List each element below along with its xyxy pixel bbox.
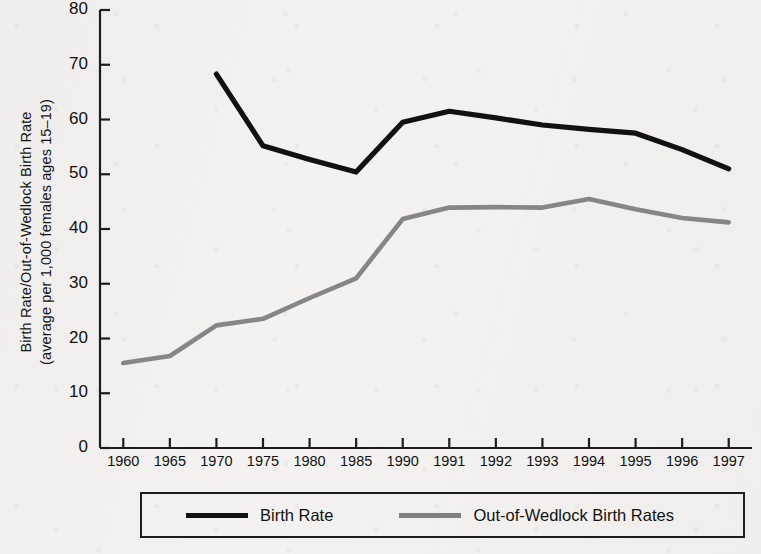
- data-series-group: [123, 74, 728, 363]
- series-line-out-of-wedlock: [123, 199, 728, 363]
- legend-label-birth-rate: Birth Rate: [260, 506, 333, 525]
- legend-item-out-of-wedlock[interactable]: Out-of-Wedlock Birth Rates: [399, 506, 674, 525]
- x-axis-ticks: [123, 438, 728, 448]
- line-chart-figure: Birth Rate/Out-of-Wedlock Birth Rate (av…: [0, 0, 761, 554]
- legend-item-birth-rate[interactable]: Birth Rate: [186, 506, 333, 525]
- legend-line-swatch-out-of-wedlock: [399, 513, 461, 518]
- legend-line-swatch-birth-rate: [186, 513, 248, 518]
- axes: [100, 10, 752, 448]
- legend-label-out-of-wedlock: Out-of-Wedlock Birth Rates: [473, 506, 674, 525]
- plot-area: [0, 0, 761, 554]
- series-line-birth-rate: [216, 74, 728, 172]
- chart-legend: Birth Rate Out-of-Wedlock Birth Rates: [140, 492, 745, 538]
- y-axis-ticks: [100, 10, 110, 448]
